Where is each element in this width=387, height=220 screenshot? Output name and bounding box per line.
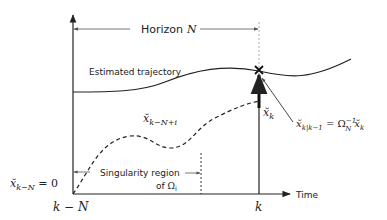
estimated-trajectory-label: Estimated trajectory xyxy=(89,67,182,77)
error-trajectory-label: x̆k−N+i xyxy=(143,112,177,127)
horizon-label: HorizonN xyxy=(141,23,197,36)
x-tick-k-minus-n: k − N xyxy=(53,200,89,214)
current-error-label: x̆k xyxy=(263,106,274,121)
prediction-equation: x̆k|k−1 = Ω−1Nx̆k xyxy=(296,117,364,133)
initial-condition-label: x̆k−N = 0 xyxy=(10,177,58,192)
singularity-label-line1: Singularity region xyxy=(100,168,180,178)
x-axis-label: Time xyxy=(295,190,318,200)
mhe-diagram: HorizonN Estimated trajectory x̆k−N+i x̆… xyxy=(0,0,387,220)
singularity-label-line2: of Ωi xyxy=(156,181,177,193)
x-tick-k: k xyxy=(255,200,262,214)
